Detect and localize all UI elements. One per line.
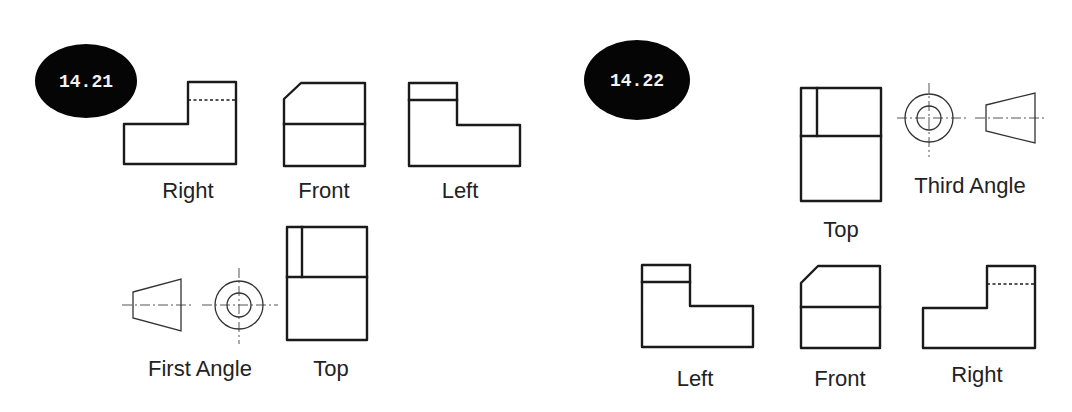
right-view: Right [923, 266, 1035, 387]
orthographic-projection-diagram: 14.21 Right Front Left First [0, 0, 1072, 412]
view-label-top: Top [823, 217, 858, 242]
front-view: Front [284, 83, 365, 203]
view-label-front: Front [814, 366, 865, 391]
third-angle-symbol: Third Angle [897, 83, 1045, 198]
view-label-left: Left [677, 366, 714, 391]
view-label-top: Top [313, 356, 348, 381]
figure-badge: 14.22 [584, 40, 690, 120]
top-view: Top [801, 88, 881, 242]
figure-badge: 14.21 [35, 44, 137, 118]
view-label-left: Left [442, 178, 479, 203]
view-label-right: Right [162, 178, 213, 203]
projection-label: Third Angle [914, 173, 1025, 198]
figure-14-22: 14.22 Top Third Angle Left [584, 40, 1045, 391]
view-label-front: Front [298, 178, 349, 203]
top-view: Top [287, 227, 367, 381]
left-view: Left [409, 83, 520, 203]
front-view: Front [801, 266, 880, 391]
projection-label: First Angle [148, 356, 252, 381]
right-view: Right [124, 82, 236, 203]
first-angle-symbol: First Angle [122, 268, 278, 381]
figure-number: 14.21 [59, 72, 113, 92]
figure-14-21: 14.21 Right Front Left First [35, 44, 520, 381]
left-view: Left [642, 265, 753, 391]
view-label-right: Right [951, 362, 1002, 387]
figure-number: 14.22 [610, 71, 664, 91]
